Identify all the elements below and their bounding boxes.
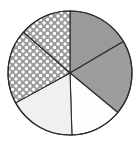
pie-slice-group <box>8 11 132 135</box>
pie-chart <box>0 0 138 146</box>
pie-chart-svg <box>0 0 138 146</box>
